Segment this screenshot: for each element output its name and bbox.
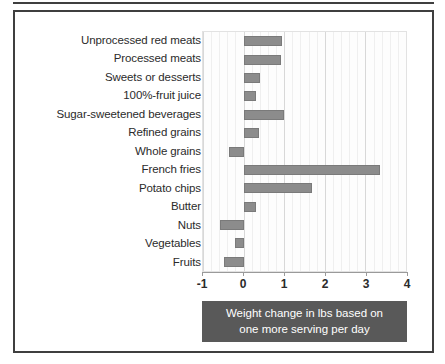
bar-row [203, 234, 406, 252]
category-label: Butter [55, 198, 201, 217]
bar[interactable] [224, 257, 244, 267]
bar[interactable] [244, 202, 256, 212]
axis-tick [243, 272, 244, 276]
axis-tick [202, 272, 203, 276]
bar[interactable] [244, 165, 380, 175]
category-label: 100%-fruit juice [55, 87, 201, 106]
bar[interactable] [229, 147, 244, 157]
plot-area [202, 31, 407, 272]
top-decorative-rule [13, 2, 434, 4]
category-label: Fruits [55, 253, 201, 272]
bar[interactable] [244, 110, 285, 120]
bar[interactable] [235, 238, 244, 248]
category-label: Sweets or desserts [55, 68, 201, 87]
gridline [406, 32, 407, 271]
category-label: Processed meats [55, 50, 201, 69]
category-label: Potato chips [55, 179, 201, 198]
caption-text: Weight change in lbs based on one more s… [226, 306, 383, 337]
bar-row [203, 179, 406, 197]
axis-tick [284, 272, 285, 276]
bar-chart: Unprocessed red meats Processed meats Sw… [15, 12, 436, 355]
axis-tick-label: -1 [187, 277, 217, 291]
caption-line-1: Weight change in lbs based on [226, 306, 383, 322]
bar-row [203, 161, 406, 179]
figure-frame: Unprocessed red meats Processed meats Sw… [13, 10, 434, 353]
axis-tick-label: 2 [310, 277, 340, 291]
axis-tick [366, 272, 367, 276]
bar-row [203, 198, 406, 216]
category-label: Refined grains [55, 124, 201, 143]
category-label: Whole grains [55, 142, 201, 161]
bar[interactable] [244, 183, 313, 193]
bar-row [203, 216, 406, 234]
bar-row [203, 142, 406, 160]
bar-row [203, 32, 406, 50]
category-label: Unprocessed red meats [55, 31, 201, 50]
chart-caption: Weight change in lbs based on one more s… [202, 301, 407, 342]
category-label: Sugar-sweetened beverages [55, 105, 201, 124]
axis-tick-label: 1 [269, 277, 299, 291]
bar-row [203, 69, 406, 87]
bar[interactable] [244, 36, 283, 46]
bar[interactable] [220, 220, 243, 230]
axis-tick-label: 0 [228, 277, 258, 291]
caption-line-2: one more serving per day [226, 322, 383, 338]
bar-row [203, 106, 406, 124]
bars-layer [203, 32, 406, 271]
bar[interactable] [244, 128, 260, 138]
bar-row [203, 87, 406, 105]
category-axis-labels: Unprocessed red meats Processed meats Sw… [55, 31, 201, 272]
bar[interactable] [244, 91, 257, 101]
category-label: French fries [55, 161, 201, 180]
bar-row [203, 124, 406, 142]
bar-row [203, 50, 406, 68]
axis-tick [325, 272, 326, 276]
category-label: Vegetables [55, 235, 201, 254]
axis-tick-label: 4 [392, 277, 422, 291]
bar[interactable] [244, 73, 261, 83]
bar[interactable] [244, 55, 282, 65]
bar-row [203, 253, 406, 271]
category-label: Nuts [55, 216, 201, 235]
x-axis-line [202, 272, 407, 273]
axis-tick [407, 272, 408, 276]
axis-tick-label: 3 [351, 277, 381, 291]
